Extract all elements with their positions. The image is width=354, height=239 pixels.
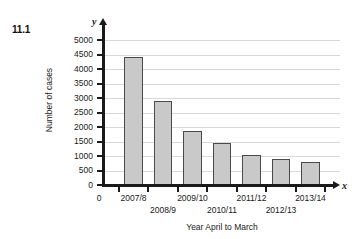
x-axis-tick-label: 2008/9: [140, 206, 186, 215]
gridline: [104, 40, 340, 41]
bar-chart: y x 050010001500200025003000350040004500…: [0, 0, 354, 239]
y-axis-tick-label: 2500: [74, 108, 93, 116]
bar: [213, 143, 231, 185]
x-axis-tick-label: 2013/14: [288, 194, 334, 203]
plot-area: [104, 30, 340, 185]
y-axis-tick-label: 4000: [74, 65, 93, 73]
x-axis-tick-label: 2009/10: [170, 194, 216, 203]
y-axis-tick-label: 0: [88, 181, 93, 189]
bar: [154, 101, 172, 185]
bar: [272, 159, 290, 185]
x-axis-tick: [147, 186, 149, 192]
x-axis-letter: x: [342, 180, 347, 191]
x-axis-arrow: [333, 181, 340, 189]
x-axis-tick-label: 2010/11: [199, 206, 245, 215]
y-axis-tick-label: 3500: [74, 79, 93, 87]
x-axis-tick: [324, 186, 326, 192]
y-axis-tick: [97, 184, 104, 186]
gridline: [104, 55, 340, 56]
x-axis-tick-label: 2012/13: [258, 206, 304, 215]
bar: [242, 155, 260, 185]
y-axis-tick-label: 1500: [74, 137, 93, 145]
y-axis-arrow: [99, 18, 107, 25]
x-axis-tick: [206, 186, 208, 192]
y-axis-tick-label: 2000: [74, 123, 93, 131]
y-axis-tick: [97, 126, 104, 128]
x-axis-tick: [118, 186, 120, 192]
y-axis-letter: y: [92, 16, 96, 27]
y-axis-tick: [97, 54, 104, 56]
y-axis-tick: [97, 68, 104, 70]
y-axis-tick: [97, 83, 104, 85]
y-axis-tick: [97, 155, 104, 157]
x-axis-tick-label: 2007/8: [111, 194, 157, 203]
y-axis-title: Number of cases: [44, 45, 54, 155]
y-axis-tick: [97, 112, 104, 114]
y-axis-tick-label: 3000: [74, 94, 93, 102]
bar: [124, 57, 142, 185]
y-axis-tick-label: 5000: [74, 36, 93, 44]
x-axis-tick: [236, 186, 238, 192]
y-axis-tick: [97, 39, 104, 41]
x-axis-tick-label: 2011/12: [229, 194, 275, 203]
x-axis-title: Year April to March: [104, 222, 340, 232]
bar: [183, 131, 201, 185]
y-axis-tick-label: 500: [79, 166, 93, 174]
y-axis-line: [102, 24, 105, 185]
y-axis-tick-label: 1000: [74, 152, 93, 160]
y-axis-tick: [97, 141, 104, 143]
y-axis-tick: [97, 170, 104, 172]
x-axis-tick: [265, 186, 267, 192]
x-axis-origin-label: 0: [92, 194, 106, 203]
y-axis-tick: [97, 97, 104, 99]
x-axis-line: [102, 184, 334, 187]
bar: [301, 162, 319, 185]
x-axis-tick: [295, 186, 297, 192]
y-axis-tick-label: 4500: [74, 50, 93, 58]
x-axis-tick: [177, 186, 179, 192]
